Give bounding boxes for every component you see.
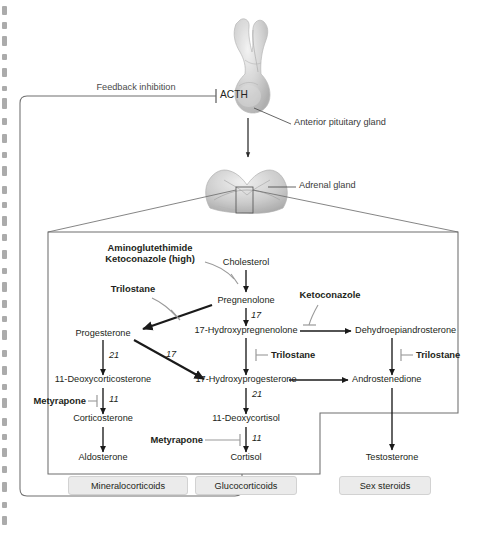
- drug-trilostane-mid: Trilostane: [271, 350, 315, 360]
- metabolite-aldosterone: Aldosterone: [78, 453, 127, 463]
- class-box-label: Glucocorticoids: [215, 481, 278, 491]
- inhibitor-bar-aminoglutethimide: [231, 274, 238, 284]
- metabolite-17-hydroxypregnenolone: 17-Hydroxypregnenolone: [194, 326, 297, 336]
- drug-trilostane-left: Trilostane: [111, 284, 155, 294]
- inhibitor-line-trilostane-left: [152, 298, 176, 316]
- metabolite-cortisol: Cortisol: [230, 453, 261, 463]
- magnifier-line-left: [48, 190, 236, 232]
- inhibitor-line-ketoconazole: [309, 305, 318, 325]
- class-box-label: Mineralocorticoids: [91, 481, 165, 491]
- enzyme-21-progesterone: 21: [109, 351, 119, 361]
- drug-trilostane-right: Trilostane: [416, 350, 460, 360]
- metabolite-dehydroepiandrosterone: Dehydroepiandrosterone: [355, 326, 456, 336]
- feedback-inhibition-label: Feedback inhibition: [96, 83, 175, 93]
- drug-ketoconazole-high: Ketoconazole (high): [105, 254, 195, 264]
- metabolite-11-deoxycortisol: 11-Deoxycortisol: [212, 414, 280, 424]
- enzyme-21-17ohprogesterone: 21: [252, 390, 262, 400]
- class-box-glucocorticoids: Glucocorticoids: [195, 476, 297, 495]
- metabolite-corticosterone: Corticosterone: [73, 414, 133, 424]
- anterior-pituitary-gland-callout: Anterior pituitary gland: [294, 118, 386, 128]
- metabolite-cholesterol: Cholesterol: [223, 258, 269, 268]
- figure-canvas: Feedback inhibition ACTH Anterior pituit…: [0, 0, 482, 540]
- magnifier-line-right: [253, 190, 458, 232]
- drug-ketoconazole: Ketoconazole: [300, 290, 361, 300]
- metabolite-testosterone: Testosterone: [366, 453, 419, 463]
- metabolite-pregnenolone: Pregnenolone: [217, 296, 274, 306]
- drug-metyrapone-right: Metyrapone: [150, 435, 203, 445]
- drug-metyrapone-left: Metyrapone: [33, 396, 86, 406]
- metabolite-progesterone: Progesterone: [75, 329, 130, 339]
- pituitary-callout-leader: [254, 108, 291, 124]
- metabolite-11-deoxycorticosterone: 11-Deoxycorticosterone: [55, 375, 151, 385]
- adrenal-gland-callout: Adrenal gland: [299, 181, 356, 191]
- acth-label: ACTH: [220, 90, 248, 101]
- feedback-inhibition-loop: [20, 96, 242, 496]
- metabolite-androstenedione: Androstenedione: [352, 375, 421, 385]
- class-box-sex-steroids: Sex steroids: [339, 476, 431, 495]
- enzyme-17-pregnenolone: 17: [251, 311, 261, 321]
- enzyme-17-progesterone: 17: [166, 350, 176, 360]
- class-box-label: Sex steroids: [360, 481, 411, 491]
- drug-aminoglutethimide: Aminoglutethimide: [108, 243, 193, 253]
- class-box-mineralocorticoids: Mineralocorticoids: [68, 476, 188, 495]
- enzyme-11-deoxycortisol: 11: [252, 434, 262, 444]
- metabolite-17-hydroxyprogesterone: 17-Hydroxyprogesterone: [195, 375, 296, 385]
- enzyme-11-deoxycorticosterone: 11: [109, 395, 119, 405]
- adrenal-gland-illustration: [206, 170, 288, 213]
